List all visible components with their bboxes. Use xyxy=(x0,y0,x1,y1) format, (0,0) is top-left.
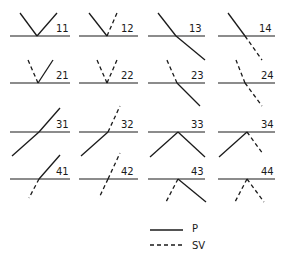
panel-33: 33 xyxy=(148,119,205,157)
panel-label: 23 xyxy=(191,70,204,81)
panel-label: 33 xyxy=(191,119,204,130)
panel-label: 11 xyxy=(56,23,69,34)
legend: PSV xyxy=(150,223,205,251)
p-ray xyxy=(158,13,176,36)
panel-label: 12 xyxy=(121,23,134,34)
panel-13: 13 xyxy=(148,13,205,60)
panel-34: 34 xyxy=(218,119,275,157)
p-ray xyxy=(176,36,205,60)
p-ray xyxy=(89,13,107,36)
panel-label: 24 xyxy=(261,70,274,81)
sv-ray xyxy=(108,106,120,132)
p-ray xyxy=(177,83,200,106)
panel-label: 14 xyxy=(259,23,272,34)
panel-label: 44 xyxy=(261,166,274,177)
panel-42: 42 xyxy=(79,153,138,198)
p-ray xyxy=(81,132,108,156)
panel-label: 13 xyxy=(189,23,202,34)
panel-label: 41 xyxy=(56,166,69,177)
panel-22: 22 xyxy=(79,60,138,83)
ray-diagram: 11121314212223243132333441424344 PSV xyxy=(0,0,286,255)
legend-item-sv: SV xyxy=(150,240,205,251)
panel-12: 12 xyxy=(79,13,138,36)
p-ray xyxy=(150,132,178,157)
panel-label: 34 xyxy=(261,119,274,130)
p-ray xyxy=(219,132,247,157)
p-ray xyxy=(178,132,205,157)
panel-24: 24 xyxy=(218,60,275,106)
sv-ray xyxy=(107,13,117,36)
panel-23: 23 xyxy=(148,58,205,106)
sv-ray xyxy=(235,179,247,202)
panel-14: 14 xyxy=(218,13,275,60)
panel-label: 32 xyxy=(121,119,134,130)
p-ray xyxy=(12,132,39,156)
sv-ray xyxy=(245,83,262,106)
sv-ray xyxy=(29,179,39,198)
sv-ray xyxy=(108,153,120,179)
sv-ray xyxy=(245,36,262,60)
panel-41: 41 xyxy=(10,155,70,198)
p-ray xyxy=(178,179,206,202)
legend-label: SV xyxy=(192,240,205,251)
panel-label: 22 xyxy=(121,70,134,81)
sv-ray xyxy=(247,132,263,154)
sv-ray xyxy=(97,60,107,83)
panel-32: 32 xyxy=(79,106,138,156)
panel-label: 42 xyxy=(121,166,134,177)
panel-44: 44 xyxy=(218,166,275,202)
panel-11: 11 xyxy=(10,13,70,36)
p-ray xyxy=(228,13,245,36)
sv-ray xyxy=(166,58,177,83)
legend-label: P xyxy=(192,223,198,234)
sv-ray xyxy=(28,60,38,83)
panel-31: 31 xyxy=(10,108,70,156)
panel-label: 21 xyxy=(56,70,69,81)
panel-21: 21 xyxy=(10,60,70,83)
sv-ray xyxy=(236,60,245,83)
panel-label: 43 xyxy=(191,166,204,177)
p-ray xyxy=(38,60,53,83)
panel-43: 43 xyxy=(148,166,206,202)
p-ray xyxy=(37,13,57,36)
sv-ray xyxy=(107,60,117,83)
sv-ray xyxy=(166,179,178,202)
sv-ray xyxy=(99,179,108,198)
panel-label: 31 xyxy=(56,119,69,130)
panels-group: 11121314212223243132333441424344 xyxy=(10,13,275,202)
p-ray xyxy=(20,13,37,36)
legend-item-p: P xyxy=(150,223,198,234)
sv-ray xyxy=(247,179,264,202)
